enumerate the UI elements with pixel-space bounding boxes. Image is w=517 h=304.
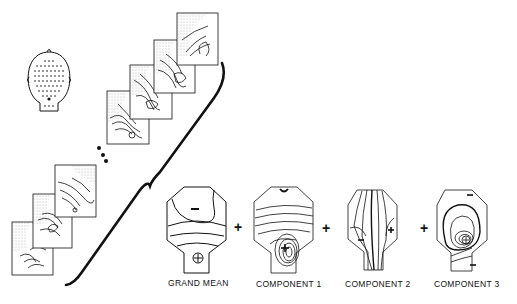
map-sequence-upper [107,13,218,144]
component-3-map [437,190,487,271]
topo-map [55,165,96,217]
ellipsis-dots [97,146,108,163]
grand-mean-map [167,187,226,273]
component-1-label: COMPONENT 1 [256,279,322,289]
component-2-map [348,190,397,270]
component-2-label: COMPONENT 2 [345,279,411,289]
plus-operator: + [322,220,330,236]
topo-map [177,13,218,65]
figure-canvas [0,0,517,304]
plus-operator: + [234,219,242,235]
plus-operator: + [420,220,428,236]
figure: + + + GRAND MEAN COMPONENT 1 COMPONENT 2… [0,0,517,304]
head-electrode-diagram [28,50,71,112]
component-3-label: COMPONENT 3 [434,279,500,289]
grand-mean-label: GRAND MEAN [168,278,229,288]
component-1-map [254,187,313,273]
map-sequence-lower [12,165,96,275]
